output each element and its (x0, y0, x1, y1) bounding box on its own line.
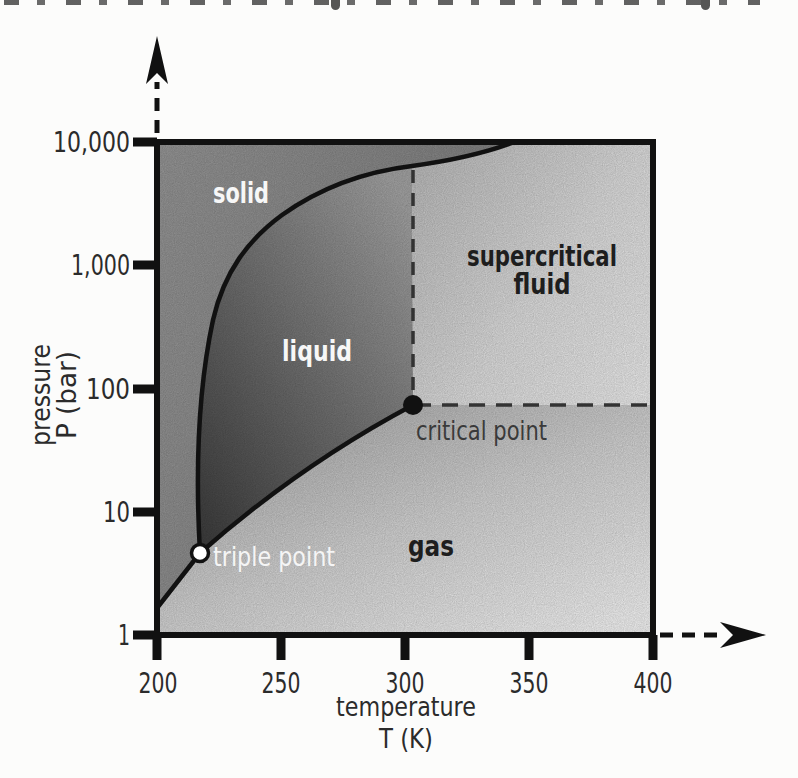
y-tick-label-10: 10 (103, 495, 130, 529)
x-tick-label-400: 400 (634, 666, 673, 700)
triple-point-marker (192, 545, 209, 562)
y-tick-label-10000: 10,000 (53, 125, 130, 159)
gas-region-label: gas (408, 529, 454, 563)
critical-point-marker (403, 395, 423, 415)
x-tick-label-250: 250 (262, 666, 301, 700)
y-tick-label-1: 1 (118, 618, 130, 652)
x-tick-label-350: 350 (510, 666, 549, 700)
y-axis-arrow-head (146, 36, 168, 84)
supercritical-region-label-line2: fluid (514, 267, 571, 301)
x-axis-unit-label: T (K) (378, 723, 433, 754)
y-tick-label-1000: 1,000 (71, 248, 130, 282)
phase-diagram-figure: solid liquid supercritical fluid gas cri… (0, 0, 798, 778)
liquid-region-label: liquid (282, 334, 352, 368)
y-axis-unit-label: P (bar) (51, 351, 82, 439)
x-axis-arrow-head (720, 622, 766, 648)
critical-point-label: critical point (416, 415, 547, 446)
scanned-figure-page: solid liquid supercritical fluid gas cri… (0, 0, 798, 778)
x-axis-title: temperature (336, 691, 476, 722)
triple-point-label: triple point (213, 541, 335, 572)
x-tick-label-200: 200 (139, 666, 178, 700)
y-tick-label-100: 100 (86, 372, 130, 406)
solid-region-label: solid (213, 176, 269, 210)
